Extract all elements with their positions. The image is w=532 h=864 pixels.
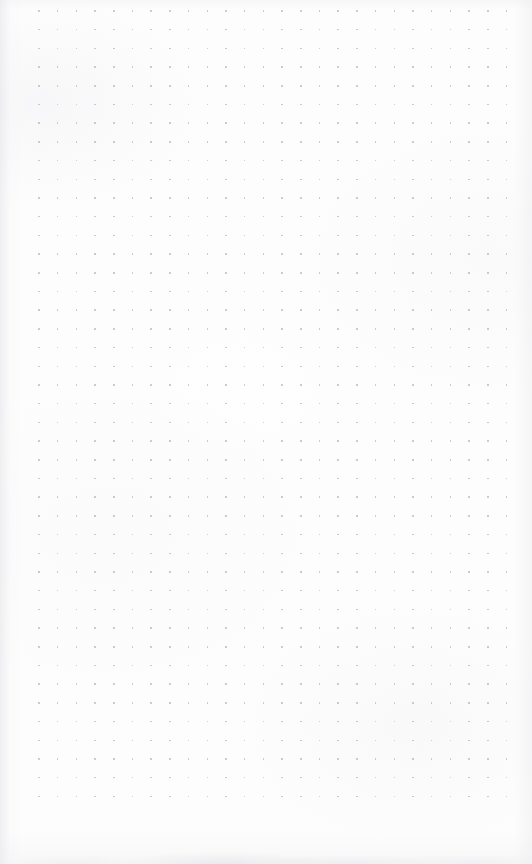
writing-surface[interactable]: [0, 0, 532, 864]
notebook-page: [0, 0, 532, 864]
